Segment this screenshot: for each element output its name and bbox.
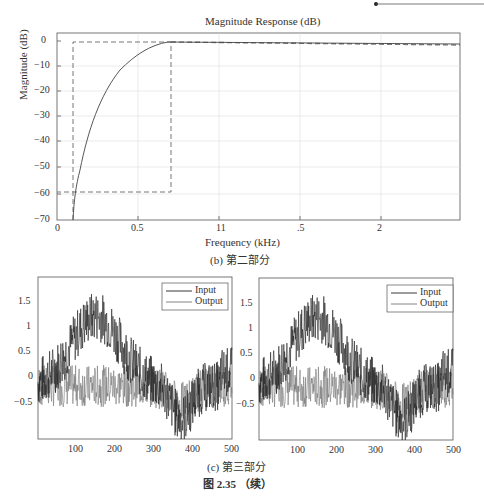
caption-c: (c) 第三部分 <box>207 458 266 474</box>
x-tick: 400 <box>185 443 200 454</box>
x-tick: 400 <box>407 444 422 455</box>
y-tick: 0 <box>250 372 255 383</box>
x-tick: 500 <box>224 443 239 454</box>
y-tick: −40 <box>34 134 50 145</box>
legend-output-label: Output <box>195 295 223 306</box>
magnitude-plot <box>57 33 460 220</box>
y-tick: 1.5 <box>18 295 31 306</box>
y-tick: −60 <box>34 187 50 198</box>
y-tick: 0 <box>28 370 33 381</box>
x-tick: 100 <box>290 444 305 455</box>
caption-b: (b) 第二部分 <box>210 251 270 267</box>
x-tick: 500 <box>446 444 461 455</box>
legend-output-label: Output <box>420 297 448 308</box>
x-tick: 300 <box>146 443 161 454</box>
x-tick: 200 <box>329 444 344 455</box>
y-tick: −10 <box>34 59 50 70</box>
y-tick: −50 <box>34 160 50 171</box>
y-tick: −30 <box>34 109 50 120</box>
y-axis-label: Magnitude (dB) <box>17 29 29 100</box>
legend-input-label: Input <box>195 284 216 295</box>
y-tick: 0.5 <box>18 345 31 356</box>
legend-input-label: Input <box>420 286 441 297</box>
y-tick: 1.5 <box>240 297 253 308</box>
chart-title: Magnitude Response (dB) <box>205 15 320 27</box>
x-tick: 200 <box>107 443 122 454</box>
y-tick: −0.5 <box>236 398 254 409</box>
x-tick: .5 <box>297 222 305 233</box>
x-tick: 0 <box>55 222 60 233</box>
y-tick: 0.5 <box>240 347 253 358</box>
header-decoration <box>374 2 484 6</box>
x-tick: 100 <box>68 443 83 454</box>
y-tick: −0.5 <box>14 396 32 407</box>
y-tick: −20 <box>34 84 50 95</box>
x-tick: 2 <box>377 222 382 233</box>
x-axis-label: Frequency (kHz) <box>205 236 280 248</box>
y-tick: 1 <box>26 320 31 331</box>
figure-caption: 图 2.35 （续） <box>203 475 272 491</box>
x-tick: 300 <box>368 444 383 455</box>
x-tick: 0.5 <box>131 222 144 233</box>
y-tick: 1 <box>248 322 253 333</box>
figure-canvas <box>0 0 484 497</box>
x-tick: 11 <box>216 222 226 233</box>
y-tick: 0 <box>41 34 46 45</box>
y-tick: −70 <box>34 213 50 224</box>
